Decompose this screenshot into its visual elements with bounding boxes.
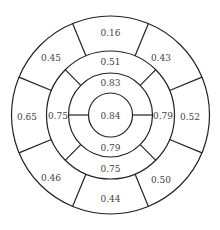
middle-divider-ne <box>140 70 156 86</box>
outer-divider-6 <box>19 140 51 153</box>
middle-bottom-value: 0.75 <box>100 164 120 174</box>
bullseye-diagram: 0.84 0.83 0.79 0.51 0.79 0.75 0.75 0.16 … <box>0 0 220 230</box>
outer-divider-2 <box>170 77 202 90</box>
middle-divider-se <box>140 145 156 161</box>
outer-left-value: 0.65 <box>17 112 37 122</box>
outer-bottom-value: 0.44 <box>100 194 120 204</box>
middle-right-value: 0.79 <box>153 111 173 121</box>
outer-divider-5 <box>73 174 86 206</box>
outer-divider-3 <box>170 140 202 153</box>
outer-top-value: 0.16 <box>100 28 120 38</box>
outer-divider-8 <box>73 24 86 56</box>
middle-divider-sw <box>65 145 81 161</box>
outer-top-left-value: 0.45 <box>41 53 61 63</box>
middle-divider-nw <box>65 70 81 86</box>
middle-left-value: 0.75 <box>48 111 68 121</box>
outer-bottom-right-value: 0.50 <box>151 175 171 185</box>
inner-top-value: 0.83 <box>100 78 120 88</box>
inner-bottom-value: 0.79 <box>100 143 120 153</box>
outer-divider-4 <box>135 174 148 206</box>
middle-top-value: 0.51 <box>100 57 120 67</box>
outer-divider-1 <box>135 24 148 56</box>
outer-divider-7 <box>19 77 51 90</box>
core-value: 0.84 <box>100 111 120 121</box>
outer-bottom-left-value: 0.46 <box>41 173 61 183</box>
outer-top-right-value: 0.43 <box>151 53 171 63</box>
outer-right-value: 0.52 <box>180 112 200 122</box>
